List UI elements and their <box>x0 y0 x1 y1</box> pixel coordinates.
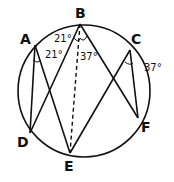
segment-BF <box>80 24 138 118</box>
label-D: D <box>17 134 29 150</box>
angle-arc-B-right <box>80 36 87 40</box>
segment-CE <box>70 50 130 153</box>
angle-label-C: 37° <box>144 62 162 73</box>
label-C: C <box>131 31 141 47</box>
angle-label-B-right: 37° <box>80 51 98 62</box>
angle-label-B-left: 21° <box>54 33 72 44</box>
label-A: A <box>20 31 31 47</box>
label-F: F <box>141 119 151 135</box>
segment-AD <box>30 45 35 133</box>
label-E: E <box>64 158 74 174</box>
circle-diagram: A B C D E F 21° 21° 37° 37° <box>0 0 174 182</box>
angle-label-A: 21° <box>45 49 63 60</box>
label-B: B <box>75 5 86 21</box>
